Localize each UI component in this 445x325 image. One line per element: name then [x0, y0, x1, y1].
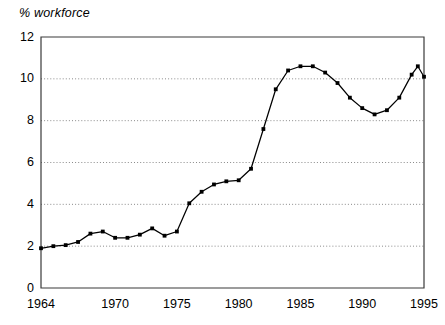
- data-point: [348, 96, 352, 100]
- y-tick-label-10: 10: [20, 72, 34, 85]
- data-point: [150, 226, 154, 230]
- x-tick-label-1964: 1964: [27, 298, 55, 311]
- data-point: [163, 234, 167, 238]
- y-tick-label-8: 8: [27, 114, 34, 127]
- data-point: [126, 236, 130, 240]
- y-tick-label-12: 12: [20, 31, 34, 44]
- data-point: [261, 127, 265, 131]
- data-point: [200, 190, 204, 194]
- series-markers-workforce: [39, 64, 426, 250]
- data-point: [187, 201, 191, 205]
- series-line-workforce: [41, 66, 424, 248]
- data-point: [39, 246, 43, 250]
- data-point: [286, 69, 290, 73]
- data-point: [336, 81, 340, 85]
- x-tick-label-1975: 1975: [163, 298, 191, 311]
- data-point: [397, 96, 401, 100]
- data-point: [323, 71, 327, 75]
- data-point: [175, 230, 179, 234]
- data-point: [311, 64, 315, 68]
- x-tick-label-1990: 1990: [348, 298, 376, 311]
- data-point: [299, 64, 303, 68]
- data-point: [422, 75, 426, 79]
- data-point: [360, 106, 364, 110]
- data-point: [89, 232, 93, 236]
- data-point: [64, 243, 68, 247]
- x-tick-label-1985: 1985: [287, 298, 315, 311]
- data-point: [416, 64, 420, 68]
- data-point: [76, 240, 80, 244]
- data-point: [212, 183, 216, 187]
- data-point: [249, 167, 253, 171]
- chart-plot-area: [0, 0, 445, 325]
- data-point: [237, 178, 241, 182]
- x-tick-label-1970: 1970: [101, 298, 129, 311]
- x-tick-label-1995: 1995: [410, 298, 438, 311]
- x-tick-label-1980: 1980: [225, 298, 253, 311]
- y-tick-label-2: 2: [27, 240, 34, 253]
- data-point: [51, 244, 55, 248]
- data-point: [410, 73, 414, 77]
- data-point: [274, 87, 278, 91]
- data-point: [385, 108, 389, 112]
- y-tick-label-0: 0: [27, 282, 34, 295]
- data-point: [138, 233, 142, 237]
- chart-figure: % workforce 024681012 196419701975198019…: [0, 0, 445, 325]
- y-tick-label-6: 6: [27, 156, 34, 169]
- data-point: [101, 230, 105, 234]
- data-point: [224, 179, 228, 183]
- data-point: [373, 112, 377, 116]
- gridlines-group: [41, 79, 424, 246]
- y-tick-label-4: 4: [27, 198, 34, 211]
- data-point: [113, 236, 117, 240]
